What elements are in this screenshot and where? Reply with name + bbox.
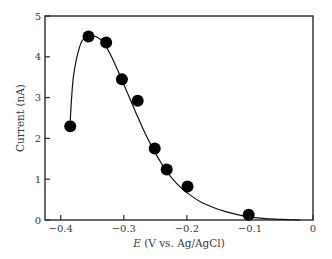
y-tick-label: 2 [35,133,41,144]
data-point [100,37,112,49]
chart: −0.4−0.3−0.2−0.10 012345 E (V vs. Ag/AgC… [0,0,332,259]
data-point [83,30,95,42]
y-axis-ticks: 012345 [35,11,50,226]
data-point [149,143,161,155]
data-point [243,209,255,221]
data-point [116,73,128,85]
fit-curve [70,35,300,220]
y-tick-label: 4 [35,51,41,62]
x-tick-label: −0.2 [175,223,199,234]
x-tick-label: −0.1 [238,223,262,234]
plot-border [45,16,313,220]
x-axis-ticks: −0.4−0.3−0.2−0.10 [49,215,317,234]
y-tick-label: 5 [35,11,41,22]
plot-frame [45,16,313,220]
data-point [182,181,194,193]
data-point [161,163,173,175]
x-tick-label: −0.3 [112,223,136,234]
fit-line [70,35,300,220]
data-point [64,120,76,132]
data-points [64,30,254,220]
x-axis-label: E (V vs. Ag/AgCl) [132,237,225,249]
y-tick-label: 3 [35,92,41,103]
y-tick-label: 0 [35,215,41,226]
x-tick-label: 0 [310,223,316,234]
y-tick-label: 1 [35,174,41,185]
y-axis-label: Current (nA) [14,84,26,152]
x-tick-label: −0.4 [49,223,73,234]
data-point [132,95,144,107]
